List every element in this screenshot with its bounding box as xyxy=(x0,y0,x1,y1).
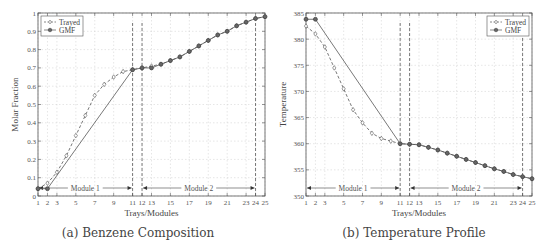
x-tick-label: 9 xyxy=(380,199,384,207)
module-annotation: Module 2 xyxy=(143,184,255,193)
x-tick-label: 21 xyxy=(224,199,232,207)
circle-marker-icon xyxy=(150,66,154,70)
module-annotation: Module 2 xyxy=(411,184,522,193)
x-tick-label: 24 xyxy=(252,199,260,207)
circle-marker-icon xyxy=(492,167,496,171)
legend-label: GMF xyxy=(59,26,75,35)
arrowhead-right-icon xyxy=(395,186,399,190)
circle-marker-icon xyxy=(483,164,487,168)
x-tick-label: 19 xyxy=(205,199,213,207)
circle-marker-icon xyxy=(426,145,430,149)
diamond-marker-icon xyxy=(380,136,383,141)
diamond-marker-icon xyxy=(74,133,77,138)
y-tick-label: 355 xyxy=(294,166,305,174)
circle-marker-icon xyxy=(436,148,440,152)
x-tick-label: 17 xyxy=(453,199,461,207)
circle-marker-icon xyxy=(168,59,172,63)
y-tick-label: 375 xyxy=(294,62,305,70)
grid xyxy=(38,13,265,196)
diamond-marker-icon xyxy=(389,139,392,144)
x-tick-label: 23 xyxy=(510,199,518,207)
x-tick-label: 11 xyxy=(397,199,404,207)
x-tick-label: 1 xyxy=(36,199,40,207)
arrowhead-right-icon xyxy=(518,186,522,190)
x-tick-label: 2 xyxy=(46,199,50,207)
x-tick-label: 5 xyxy=(74,199,78,207)
y-tick-label: 0.2 xyxy=(27,156,36,164)
series-line-gmf xyxy=(306,19,532,178)
circle-marker-icon xyxy=(398,142,402,146)
y-tick-label: 350 xyxy=(294,193,305,201)
legend: TrayedGMF xyxy=(487,16,529,36)
y-tick-label: 365 xyxy=(294,114,305,122)
circle-marker-icon xyxy=(521,175,525,179)
arrowhead-left-icon xyxy=(411,186,415,190)
circle-marker-icon xyxy=(464,157,468,161)
y-axis-label: Molar Fraction xyxy=(10,77,20,132)
y-tick-label: 0.3 xyxy=(27,138,36,146)
circle-marker-icon xyxy=(511,173,515,177)
circle-marker-icon xyxy=(263,15,267,19)
x-tick-label: 2 xyxy=(314,199,318,207)
y-tick-label: 0.9 xyxy=(27,28,36,36)
y-tick-label: 385 xyxy=(294,10,305,18)
x-tick-label: 3 xyxy=(55,199,59,207)
x-tick-label: 25 xyxy=(262,199,270,207)
circle-marker-icon xyxy=(48,28,52,32)
y-tick-label: 0.1 xyxy=(27,174,36,182)
module-label: Module 2 xyxy=(452,184,481,193)
diamond-marker-icon xyxy=(304,24,307,29)
temperature-profile-panel: 3503553603653703753803851235791112131517… xyxy=(276,0,552,251)
x-axis-label: Trays/Modules xyxy=(124,208,179,218)
circle-marker-icon xyxy=(140,66,144,70)
y-tick-label: 370 xyxy=(294,88,305,96)
circle-marker-icon xyxy=(474,161,478,165)
x-tick-label: 3 xyxy=(323,199,327,207)
circle-marker-icon xyxy=(304,17,308,21)
x-tick-label: 24 xyxy=(519,199,527,207)
x-tick-label: 1 xyxy=(304,199,308,207)
y-tick-label: 0.8 xyxy=(27,46,36,54)
x-tick-label: 19 xyxy=(472,199,480,207)
x-tick-label: 7 xyxy=(93,199,97,207)
circle-marker-icon xyxy=(197,44,201,48)
circle-marker-icon xyxy=(36,187,40,191)
y-tick-label: 0.6 xyxy=(27,83,36,91)
circle-marker-icon xyxy=(502,169,506,173)
x-tick-label: 13 xyxy=(148,199,156,207)
x-tick-label: 11 xyxy=(129,199,136,207)
circle-marker-icon xyxy=(178,55,182,59)
circle-marker-icon xyxy=(494,28,498,32)
y-tick-label: 0.5 xyxy=(27,101,36,109)
arrowhead-left-icon xyxy=(143,186,147,190)
circle-marker-icon xyxy=(408,142,412,146)
diamond-marker-icon xyxy=(122,69,125,74)
circle-marker-icon xyxy=(445,151,449,155)
y-tick-label: 0.4 xyxy=(27,119,36,127)
module-annotation: Module 1 xyxy=(307,184,399,193)
module-label: Module 2 xyxy=(184,184,213,193)
module-annotation: Module 1 xyxy=(39,184,132,193)
legend-label: GMF xyxy=(505,26,521,35)
diamond-marker-icon xyxy=(314,32,317,37)
diamond-marker-icon xyxy=(93,93,96,98)
y-axis-label: Temperature xyxy=(278,82,288,127)
circle-marker-icon xyxy=(45,187,49,191)
circle-marker-icon xyxy=(206,38,210,42)
diamond-marker-icon xyxy=(333,66,336,71)
arrowhead-right-icon xyxy=(251,186,255,190)
grid xyxy=(306,13,532,196)
circle-marker-icon xyxy=(455,154,459,158)
x-tick-label: 12 xyxy=(406,199,414,207)
benzene-composition-panel: 00.10.20.30.40.50.60.70.80.9112357911121… xyxy=(0,0,276,251)
x-tick-label: 12 xyxy=(139,199,147,207)
x-axis-label: Trays/Modules xyxy=(392,208,447,218)
circle-marker-icon xyxy=(313,17,317,21)
temperature-profile-chart: 3503553603653703753803851235791112131517… xyxy=(276,0,552,225)
y-tick-label: 0.7 xyxy=(27,64,36,72)
circle-marker-icon xyxy=(187,49,191,53)
chart-caption: (b) Temperature Profile xyxy=(276,226,552,240)
x-tick-label: 13 xyxy=(416,199,424,207)
chart-caption: (a) Benzene Composition xyxy=(0,226,276,240)
x-tick-label: 15 xyxy=(434,199,442,207)
